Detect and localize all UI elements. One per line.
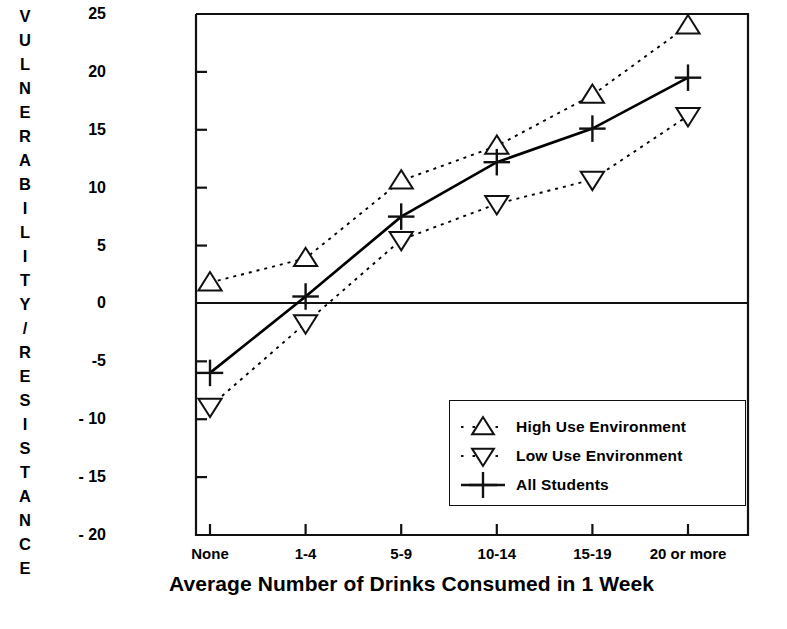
series-line: [210, 26, 688, 283]
data-point: [675, 64, 702, 91]
legend-item-label: Low Use Environment: [516, 447, 683, 465]
data-point: [198, 399, 221, 417]
x-axis-title-text: Average Number of Drinks Consumed in 1 W…: [169, 572, 654, 596]
data-point: [294, 248, 317, 266]
series-low-use-environment: [198, 108, 699, 417]
plot-area: [0, 0, 787, 629]
data-point: [485, 196, 508, 214]
x-axis-tick-labels: None1-45-910-1415-1920 or more: [0, 545, 787, 567]
series-line: [210, 78, 688, 373]
series-line: [210, 116, 688, 407]
series-all-students: [197, 64, 702, 386]
legend-item: Low Use Environment: [450, 440, 745, 471]
data-point: [294, 315, 317, 333]
data-point: [390, 170, 413, 188]
y-axis-ticks: [196, 72, 207, 477]
x-axis-ticks: [210, 524, 688, 535]
data-point: [579, 115, 606, 142]
chart-figure: VULNERABILITY/RESISTANCE 2520151050-5- 1…: [0, 0, 787, 629]
x-axis-tick-label: 20 or more: [650, 545, 727, 562]
data-point: [676, 108, 699, 126]
x-axis-tick-label: 1-4: [295, 545, 317, 562]
x-axis-tick-label: 15-19: [573, 545, 611, 562]
data-series-layer: [197, 15, 702, 417]
x-axis-title: Average Number of Drinks Consumed in 1 W…: [0, 572, 787, 596]
data-point: [197, 360, 224, 387]
x-axis-tick-label: 5-9: [390, 545, 412, 562]
data-point: [581, 172, 604, 190]
x-axis-tick-label: None: [191, 545, 229, 562]
data-point: [581, 85, 604, 103]
data-point: [676, 15, 699, 33]
series-high-use-environment: [198, 15, 699, 290]
legend-symbol-triangle-down-dotted-icon: [450, 443, 516, 469]
legend-symbol-plus-solid-icon: [450, 472, 516, 498]
legend-item: All Students: [450, 469, 745, 500]
legend-symbol-triangle-up-dotted-icon: [450, 414, 516, 440]
legend-box: High Use EnvironmentLow Use EnvironmentA…: [449, 400, 746, 506]
legend-item-label: All Students: [516, 476, 609, 494]
x-axis-tick-label: 10-14: [478, 545, 516, 562]
legend-item: High Use Environment: [450, 411, 745, 442]
legend-item-label: High Use Environment: [516, 418, 686, 436]
